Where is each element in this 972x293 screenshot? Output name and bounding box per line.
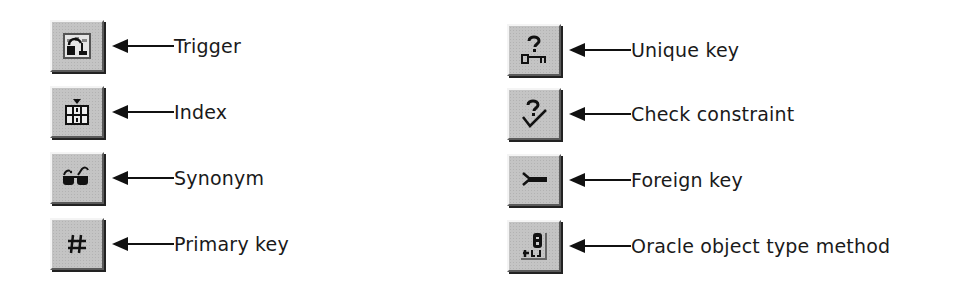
object-type-method-button[interactable] [507,220,561,272]
arrow-left-icon [112,39,174,53]
arrow-left-icon [569,107,631,121]
index-icon [60,95,94,129]
legend-label: Synonym [174,167,264,189]
legend-item-unique-key: Unique key [507,22,739,78]
unique-key-button[interactable] [507,24,561,76]
object-type-method-icon [517,229,551,263]
legend-item-object-type-method: Oracle object type method [507,218,890,274]
synonym-button[interactable] [50,152,104,204]
unique-key-icon [517,33,551,67]
legend-item-check-constraint: Check constraint [507,86,794,142]
arrow-left-icon [569,239,631,253]
legend-label: Index [174,101,227,123]
legend-label: Primary key [174,233,289,255]
legend-label: Trigger [174,35,241,57]
legend-item-index: Index [50,84,227,140]
arrow-left-icon [569,173,631,187]
foreign-key-button[interactable] [507,154,561,206]
legend-label: Check constraint [631,103,794,125]
arrow-left-icon [112,105,174,119]
trigger-button[interactable] [50,20,104,72]
synonym-icon [60,161,94,195]
trigger-icon [60,29,94,63]
legend-label: Unique key [631,39,739,61]
legend-item-trigger: Trigger [50,18,241,74]
arrow-left-icon [112,237,174,251]
primary-key-button[interactable] [50,218,104,270]
legend-label: Foreign key [631,169,743,191]
check-constraint-icon [517,97,551,131]
primary-key-icon [60,227,94,261]
legend-label: Oracle object type method [631,235,890,257]
arrow-left-icon [569,43,631,57]
index-button[interactable] [50,86,104,138]
check-constraint-button[interactable] [507,88,561,140]
legend-item-foreign-key: Foreign key [507,152,743,208]
arrow-left-icon [112,171,174,185]
legend-item-primary-key: Primary key [50,216,289,272]
foreign-key-icon [517,163,551,197]
legend-item-synonym: Synonym [50,150,264,206]
